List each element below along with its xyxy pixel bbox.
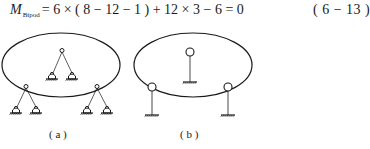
hinge-icon <box>148 83 156 91</box>
node-middle <box>183 48 197 84</box>
pinned-support-icon <box>46 72 59 81</box>
node-left <box>145 83 159 117</box>
ground-icon <box>221 115 235 117</box>
bipod-left <box>10 85 43 116</box>
figure-b-caption: ( b ) <box>180 128 198 140</box>
figure-a-boundary-ellipse <box>2 33 120 97</box>
figure-a-caption: ( a ) <box>49 128 67 140</box>
figure-a <box>2 33 120 115</box>
hinge-icon <box>24 85 28 89</box>
bipod-right <box>81 85 114 116</box>
hinge-icon <box>186 48 194 56</box>
hinge-icon <box>60 49 64 53</box>
hinge-icon <box>224 83 232 91</box>
ground-icon <box>183 82 197 84</box>
pinned-support-icon <box>81 106 94 115</box>
pinned-support-icon <box>101 106 114 115</box>
ground-icon <box>145 115 159 117</box>
bipod-top <box>46 49 79 82</box>
pinned-support-icon <box>30 106 43 115</box>
figure-b <box>134 33 252 117</box>
hinge-icon <box>95 85 99 89</box>
pinned-support-icon <box>66 72 79 81</box>
pinned-support-icon <box>10 106 23 115</box>
